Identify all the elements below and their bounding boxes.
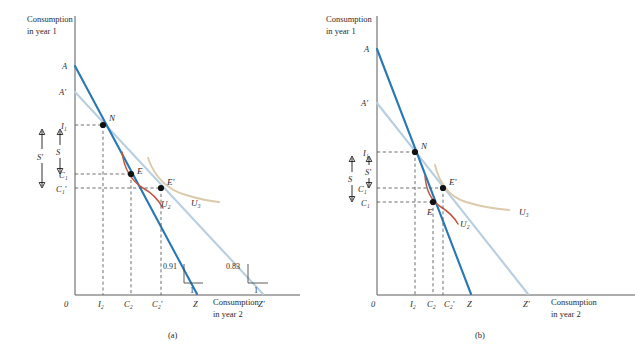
panel-b-point-N xyxy=(412,149,418,155)
panel-b-curve-label-u3: U₃ xyxy=(519,207,529,217)
panel-b-label-N: N xyxy=(420,141,428,151)
panel-b-bracket-S: S xyxy=(347,156,359,202)
panel-b-xtick-Z: Z xyxy=(467,299,472,309)
panel-a-slope-run-flat: 1 xyxy=(254,286,258,295)
panel-a-x-axis-title-line2: in year 2 xyxy=(213,309,243,319)
panel-b-bracket-label-S-prime: S′ xyxy=(365,167,371,177)
panel-a-ytick-C1-prime: C₁′ xyxy=(56,184,67,194)
panel-b-x-axis-title-line1: Consumption xyxy=(551,297,598,307)
panel-a-label-A-prime: A′ xyxy=(58,87,66,97)
panel-b-budget-line-steep xyxy=(377,49,471,294)
panel-b-label-A-prime: A′ xyxy=(360,98,368,108)
panel-a-slope-triangle-flat: 0.83 1 xyxy=(226,262,268,295)
panel-a-xtick-C2-prime: C₂′ xyxy=(152,299,163,309)
panel-a-slope-run-steep: 1 xyxy=(190,286,194,295)
panel-a-xtick-Z-prime: Z′ xyxy=(258,299,265,309)
panel-a-xtick-I2: I₂ xyxy=(97,299,104,309)
panel-a-origin-label: 0 xyxy=(64,299,69,309)
panel-a-ytick-I1: I₁ xyxy=(60,121,67,131)
panel-a-budget-line-steep xyxy=(75,66,197,294)
panel-b-label-A: A xyxy=(363,44,370,54)
panel-a-label-E-prime: E′ xyxy=(166,177,175,187)
panel-b-point-E xyxy=(430,199,436,205)
panel-b-ytick-C1-prime: C₁′ xyxy=(358,184,369,194)
panel-b-xtick-I2: I₂ xyxy=(409,299,416,309)
panel-b-indifference-curve-u3 xyxy=(435,165,509,210)
panel-b-y-axis-title-line2: in year 1 xyxy=(326,26,356,36)
panel-a-curve-label-u3: U₃ xyxy=(191,198,201,208)
panel-a-label-A: A xyxy=(61,61,68,71)
panel-b-label-E: E xyxy=(426,207,433,217)
panel-a-caption: (a) xyxy=(168,330,178,340)
panel-a-bracket-S-prime: S′ xyxy=(36,129,49,188)
panel-a-y-axis-title-line1: Consumption xyxy=(27,14,74,24)
figure-root: Consumption in year 1 Consumption in yea… xyxy=(0,0,635,348)
panel-b: Consumption in year 1 Consumption in yea… xyxy=(326,14,635,340)
panel-b-x-axis-title-line2: in year 2 xyxy=(551,309,581,319)
panel-b-caption: (b) xyxy=(475,330,485,340)
panel-b-ytick-I1: I₁ xyxy=(362,148,369,158)
panel-a-indifference-curve-u3 xyxy=(148,158,219,202)
panel-a-label-N: N xyxy=(108,113,116,123)
panel-a-y-axis-title-line2: in year 1 xyxy=(27,26,57,36)
panel-b-point-E-prime xyxy=(440,185,446,191)
panel-b-xtick-Z-prime: Z′ xyxy=(523,299,530,309)
panel-b-ytick-C1: C₁ xyxy=(361,198,370,208)
panel-a-slope-value-steep: 0.91 xyxy=(163,262,177,271)
panel-b-budget-line-flat xyxy=(377,103,528,294)
panel-b-y-axis-title-line1: Consumption xyxy=(326,14,373,24)
panel-b-xtick-C2-prime: C₂′ xyxy=(444,299,455,309)
panel-b-origin-label: 0 xyxy=(371,299,376,309)
panel-b-label-E-prime: E′ xyxy=(448,177,457,187)
panel-b-curve-label-u2: U₂ xyxy=(460,219,470,229)
figure-svg: Consumption in year 1 Consumption in yea… xyxy=(0,0,635,348)
panel-a: Consumption in year 1 Consumption in yea… xyxy=(27,14,300,340)
panel-a-xtick-Z: Z xyxy=(193,299,198,309)
panel-a-point-N xyxy=(100,122,106,128)
panel-a-bracket-label-S-prime: S′ xyxy=(37,152,43,162)
panel-b-xtick-C2: C₂ xyxy=(427,299,436,309)
panel-a-point-E-prime xyxy=(158,185,164,191)
panel-a-slope-value-flat: 0.83 xyxy=(226,262,240,271)
panel-a-curve-label-u2: U₂ xyxy=(161,199,171,209)
panel-a-x-axis-title-line1: Consumption xyxy=(213,297,260,307)
panel-a-bracket-S: S xyxy=(54,129,67,174)
panel-a-xtick-C2: C₂ xyxy=(124,299,133,309)
panel-a-point-E xyxy=(128,171,134,177)
panel-a-label-E: E xyxy=(136,166,143,176)
